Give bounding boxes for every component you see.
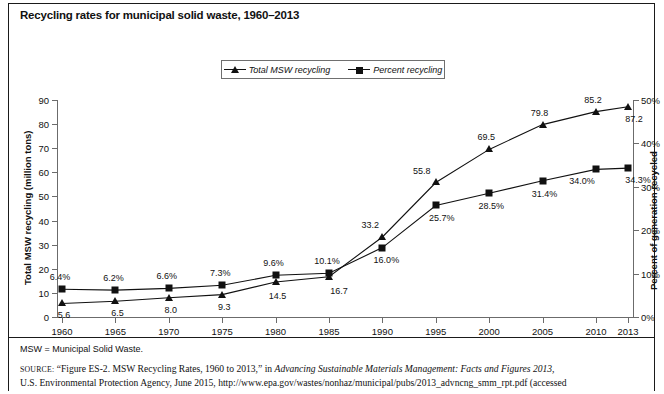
plot-area: 01020304050607080900%10%20%30%40%50%1960… <box>0 0 664 394</box>
data-label-percent: 7.3% <box>210 268 231 278</box>
data-label-percent: 9.6% <box>263 258 284 268</box>
data-label-percent: 10.1% <box>314 256 340 266</box>
data-label-total-msw: 16.7 <box>330 286 348 296</box>
data-point-total-msw[interactable] <box>165 294 173 301</box>
data-point-percent[interactable] <box>625 165 632 172</box>
data-label-percent: 34.3% <box>625 175 651 185</box>
source-text-part2: U.S. Environmental Protection Agency, Ju… <box>20 377 567 388</box>
data-label-total-msw: 9.3 <box>218 302 231 312</box>
data-point-percent[interactable] <box>432 202 439 209</box>
data-point-percent[interactable] <box>272 272 279 279</box>
data-label-total-msw: 5.6 <box>58 310 71 320</box>
data-point-percent[interactable] <box>325 270 332 277</box>
data-point-total-msw[interactable] <box>539 121 547 128</box>
data-label-percent: 28.5% <box>478 201 504 211</box>
data-point-total-msw[interactable] <box>378 233 386 240</box>
data-point-total-msw[interactable] <box>111 297 119 304</box>
data-label-total-msw: 6.5 <box>111 308 124 318</box>
total-msw-recycling-line <box>62 107 628 304</box>
source-title-italic: Advancing Sustainable Materials Manageme… <box>275 363 555 374</box>
data-point-total-msw[interactable] <box>218 291 226 298</box>
data-label-percent: 6.4% <box>50 272 71 282</box>
series-lines <box>0 0 664 394</box>
source-note: SOURCE: “Figure ES-2. MSW Recycling Rate… <box>20 363 645 389</box>
data-label-total-msw: 8.0 <box>165 305 178 315</box>
percent-recycling-line <box>62 168 628 290</box>
source-text-part1: “Figure ES-2. MSW Recycling Rates, 1960 … <box>57 363 275 374</box>
data-label-percent: 16.0% <box>374 255 400 265</box>
figure-panel: Recycling rates for municipal solid wast… <box>0 0 664 394</box>
data-label-percent: 31.4% <box>532 189 558 199</box>
data-label-total-msw: 33.2 <box>362 220 380 230</box>
data-label-total-msw: 69.5 <box>477 132 495 142</box>
data-point-percent[interactable] <box>379 244 386 251</box>
data-point-total-msw[interactable] <box>485 145 493 152</box>
data-point-total-msw[interactable] <box>272 278 280 285</box>
data-point-percent[interactable] <box>539 177 546 184</box>
data-label-total-msw: 14.5 <box>269 291 287 301</box>
data-point-percent[interactable] <box>59 286 66 293</box>
data-point-total-msw[interactable] <box>592 108 600 115</box>
data-point-percent[interactable] <box>486 190 493 197</box>
data-label-percent: 34.0% <box>569 176 595 186</box>
data-label-total-msw: 55.8 <box>413 166 431 176</box>
data-label-total-msw: 87.2 <box>625 114 643 124</box>
abbreviation-note: MSW = Municipal Solid Waste. <box>20 344 143 354</box>
data-point-total-msw[interactable] <box>432 178 440 185</box>
source-label: SOURCE: <box>20 365 54 374</box>
data-label-percent: 25.7% <box>429 213 455 223</box>
data-point-total-msw[interactable] <box>624 103 632 110</box>
data-label-percent: 6.2% <box>103 273 124 283</box>
data-point-percent[interactable] <box>592 166 599 173</box>
data-point-percent[interactable] <box>165 285 172 292</box>
data-point-total-msw[interactable] <box>58 299 66 306</box>
data-label-percent: 6.6% <box>157 271 178 281</box>
data-point-percent[interactable] <box>112 287 119 294</box>
data-label-total-msw: 85.2 <box>584 95 602 105</box>
data-label-total-msw: 79.8 <box>531 108 549 118</box>
data-point-percent[interactable] <box>219 282 226 289</box>
